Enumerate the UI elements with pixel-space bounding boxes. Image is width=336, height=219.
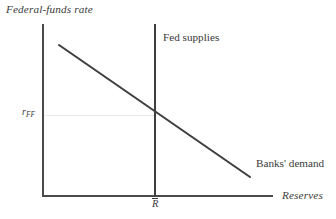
equilibrium-rate-subscript: FF <box>26 111 35 119</box>
x-axis-label: Reserves <box>282 190 323 201</box>
federal-funds-market-diagram: Federal-funds rate Reserves Fed supplies… <box>0 0 336 219</box>
y-axis-label: Federal-funds rate <box>6 4 93 15</box>
fed-supplies-label: Fed supplies <box>163 32 219 43</box>
fed-supplies-vertical-line <box>154 24 156 196</box>
banks-demand-label: Banks' demand <box>256 158 324 169</box>
equilibrium-reserves-symbol: R <box>152 199 158 210</box>
equilibrium-reserves-tick-label: R <box>152 199 158 210</box>
equilibrium-rate-guide-line <box>44 115 155 116</box>
equilibrium-rate-tick-label: rFF <box>22 107 35 117</box>
y-axis-line <box>42 24 44 197</box>
